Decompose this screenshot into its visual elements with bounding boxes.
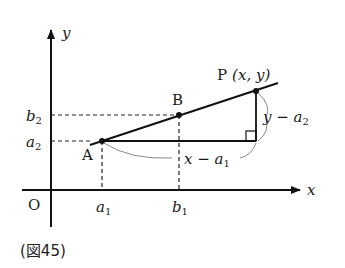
tick-b2-base: b (26, 107, 36, 125)
tick-a2-sub: 2 (35, 141, 41, 152)
dashed-guides (51, 115, 179, 190)
coordinate-diagram: y x O A B P (x, y) b2 a2 a1 b1 x − a1 y … (0, 0, 345, 268)
annotation-y-minus-a2: y − a2 (262, 108, 309, 127)
ann-v-base: a (294, 108, 303, 126)
point-B (176, 112, 182, 118)
tick-a2: a2 (26, 133, 41, 152)
x-axis-label: x (307, 181, 316, 199)
label-P-coords: (x, y) (232, 66, 270, 84)
tick-b1-base: b (172, 198, 182, 216)
label-B: B (172, 91, 183, 109)
annotation-x-minus-a1: x − a1 (184, 150, 230, 169)
point-P (253, 88, 259, 94)
tick-a1-base: a (96, 198, 105, 216)
label-P-name: P (217, 66, 227, 84)
ann-h-base: a (215, 150, 224, 168)
tick-b1: b1 (172, 198, 188, 217)
tick-a1-sub: 1 (105, 206, 111, 217)
tick-b2: b2 (26, 107, 42, 126)
ann-h-op: − (192, 150, 214, 168)
figure-caption: (図45) (20, 242, 66, 260)
horizontal-brace-right (240, 143, 256, 158)
tick-b1-sub: 1 (182, 206, 188, 217)
origin-label: O (28, 196, 40, 214)
horizontal-brace (104, 143, 172, 158)
ann-v-sub: 2 (303, 116, 309, 127)
label-A: A (81, 146, 93, 164)
tick-a2-base: a (26, 133, 35, 151)
ann-v-op: − (271, 108, 293, 126)
ann-h-sub: 1 (224, 158, 230, 169)
line-AP (90, 83, 278, 145)
right-angle-mark (246, 131, 256, 141)
tick-b2-sub: 2 (36, 115, 42, 126)
point-A (99, 138, 105, 144)
y-axis-label: y (61, 24, 71, 42)
label-P: P (x, y) (217, 66, 270, 84)
tick-a1: a1 (96, 198, 111, 217)
